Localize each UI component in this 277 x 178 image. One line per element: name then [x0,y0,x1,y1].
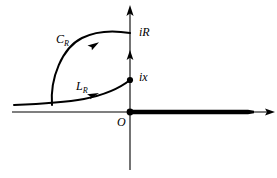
curve-LR-path [14,80,130,105]
arc-CR-direction-arrow-icon [88,42,100,50]
label-imaginary-point: ix [139,71,148,83]
point-origin-marker [127,109,134,116]
label-curve-LR-base: L [76,79,83,93]
label-curve-LR: LR [76,80,88,96]
imaginary-axis [126,5,133,170]
label-arc-CR: CR [56,33,69,49]
label-arc-CR-sub: R [64,39,69,48]
curve-LR [14,80,130,105]
contour-diagram-figure: CR LR iR ix O [0,0,277,178]
branch-cut-taper [248,110,254,115]
label-imaginary-top: iR [139,26,150,38]
label-curve-LR-sub: R [83,86,88,95]
label-origin: O [117,116,126,128]
branch-cut-ray [130,110,254,115]
label-arc-CR-base: C [56,32,64,46]
point-ix-marker [127,77,133,83]
